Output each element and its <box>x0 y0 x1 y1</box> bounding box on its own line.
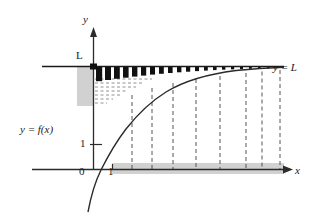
y-axis-band <box>77 66 93 106</box>
x-tick-one-label: 1 <box>108 166 114 177</box>
asymptote-figure: y L y = L y = f(x) 1 0 1 x <box>0 0 312 213</box>
gap-bar <box>123 67 129 78</box>
y-tick-one-label: 1 <box>80 138 86 149</box>
gap-bar <box>195 67 199 71</box>
gap-bar <box>213 67 217 70</box>
origin-label: 0 <box>79 166 85 177</box>
x-axis-label: x <box>295 165 300 176</box>
gap-bar <box>168 67 173 73</box>
gap-bar <box>150 67 155 75</box>
gap-bar <box>141 67 146 76</box>
gap-bar <box>186 67 190 72</box>
gap-bar <box>159 67 164 74</box>
origin-marker <box>90 64 97 70</box>
function-label: y = f(x) <box>20 124 53 135</box>
y-axis-label: y <box>83 14 88 25</box>
gap-bar <box>132 67 137 77</box>
axes <box>32 33 286 170</box>
function-curve <box>88 67 284 212</box>
gap-bar <box>177 67 181 72</box>
gap-bar <box>204 67 208 71</box>
gap-hatching <box>95 79 152 103</box>
gap-bar <box>114 67 120 79</box>
figure-svg <box>0 0 312 213</box>
gap-bar <box>105 67 111 80</box>
gap-bar <box>222 67 225 70</box>
drop-lines <box>132 70 280 170</box>
asymptote-label: y = L <box>273 62 297 73</box>
limit-value-label: L <box>76 50 83 61</box>
y-axis-arrowhead <box>90 27 97 37</box>
x-axis-arrowhead <box>283 166 293 174</box>
x-axis-band <box>112 163 284 174</box>
gap-bar <box>231 67 234 69</box>
